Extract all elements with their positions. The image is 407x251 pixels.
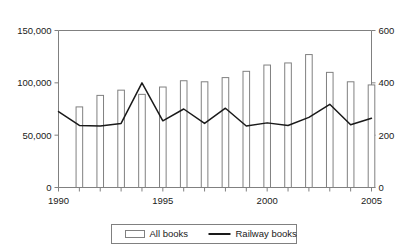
right-axis-tick-label: 200 [379,130,395,141]
bar-1998 [222,78,229,188]
bar-swatch-icon [126,231,145,238]
left-axis-tick-label: 150,000 [17,25,51,36]
bar-1992 [97,95,104,187]
right-axis-tick-label: 0 [379,182,384,193]
legend-label-all-books: All books [150,228,189,239]
left-axis-tick-label: 100,000 [17,77,51,88]
left-axis-tick-label: 50,000 [22,130,51,141]
bar-2002 [306,55,313,188]
plot-frame [59,31,372,188]
chart-legend: All booksRailway books [112,225,297,244]
bar-2003 [326,72,333,187]
bar-1999 [243,71,250,187]
right-axis-tick-label: 400 [379,77,395,88]
bar-1995 [160,87,167,187]
bar-1994 [139,94,146,187]
legend-label-railway-books: Railway books [236,228,297,239]
x-axis: 1990199520002005 [48,188,382,206]
chart-figure: 050,000100,000150,0000200400600199019952… [0,0,407,251]
bar-1997 [201,82,208,188]
bar-1991 [76,107,83,188]
bar-1993 [118,90,125,187]
x-axis-tick-label: 1990 [48,195,69,206]
bar-series-all-books [76,55,375,188]
x-axis-tick-label: 2005 [361,195,382,206]
books-publication-chart: 050,000100,000150,0000200400600199019952… [0,0,407,251]
right-axis-tick-label: 600 [379,25,395,36]
bar-2004 [347,82,354,188]
left-axis: 050,000100,000150,000 [17,25,58,193]
left-axis-tick-label: 0 [46,182,51,193]
x-axis-tick-label: 1995 [152,195,173,206]
bar-2005 [368,85,375,188]
bar-2000 [264,65,271,187]
bar-1996 [180,81,187,188]
line-series-railway-books [59,83,372,126]
x-axis-tick-label: 2000 [257,195,278,206]
